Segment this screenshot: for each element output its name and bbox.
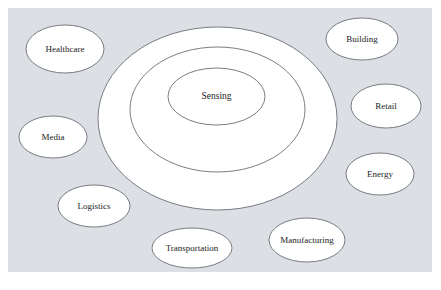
core-rings-group [98, 27, 337, 210]
node-media-ellipse[interactable] [19, 116, 87, 158]
node-transportation-ellipse[interactable] [152, 228, 232, 268]
node-building-ellipse[interactable] [326, 18, 398, 60]
node-retail-ellipse[interactable] [351, 84, 421, 128]
node-energy-ellipse[interactable] [346, 153, 414, 195]
sensing-domain-diagram [0, 0, 441, 290]
diagram-canvas: Sensing Healthcare Building Retail Media… [0, 0, 441, 290]
inner-ring-ellipse [168, 68, 265, 125]
node-manufacturing-ellipse[interactable] [269, 218, 345, 262]
node-healthcare-ellipse[interactable] [26, 25, 104, 73]
node-logistics-ellipse[interactable] [58, 185, 130, 227]
